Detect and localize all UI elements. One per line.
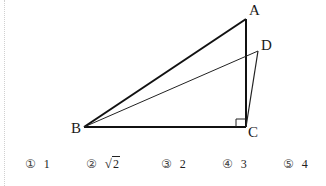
right-angle-marker [236, 119, 246, 127]
choice-2[interactable]: ②√2 [86, 156, 120, 172]
choice-value: 4 [302, 157, 308, 171]
answer-choices: ①1 ②√2 ③2 ④3 ⑤4 [0, 156, 326, 176]
label-point-b: B [71, 121, 81, 136]
choice-3[interactable]: ③2 [161, 156, 186, 172]
segment-cd [246, 51, 258, 127]
choice-1[interactable]: ①1 [25, 156, 50, 172]
choice-4[interactable]: ④3 [222, 156, 247, 172]
label-point-d: D [261, 38, 272, 53]
choice-number: ③ [161, 157, 172, 171]
triangle-figure [0, 0, 326, 150]
choice-value: 3 [241, 157, 247, 171]
label-point-a: A [249, 3, 260, 18]
choice-value: 2 [112, 156, 120, 171]
segment-ab [84, 19, 246, 127]
choice-number: ② [86, 157, 97, 171]
segment-bd [84, 51, 258, 127]
sqrt-expression: √2 [105, 156, 120, 172]
choice-number: ④ [222, 157, 233, 171]
label-point-c: C [248, 125, 258, 140]
choice-number: ① [25, 157, 36, 171]
choice-value: 2 [180, 157, 186, 171]
choice-value: 1 [44, 157, 50, 171]
choice-5[interactable]: ⑤4 [283, 156, 308, 172]
radical-sign-icon: √ [105, 156, 112, 171]
choice-number: ⑤ [283, 157, 294, 171]
